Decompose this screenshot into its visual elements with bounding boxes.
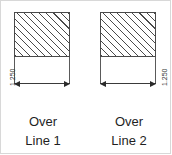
dimension-line-1 <box>14 83 70 84</box>
arrowhead-right-icon <box>150 81 156 87</box>
hatched-part-1 <box>14 12 70 57</box>
drawing-sheet: 1.250 Over Line 1 1.250 Over Line 2 <box>0 0 172 155</box>
caption-line-1b: Line 1 <box>0 131 86 150</box>
figure-caption-1: Over Line 1 <box>0 112 86 150</box>
figure-caption-2: Over Line 2 <box>86 112 172 150</box>
arrowhead-right-icon <box>64 81 70 87</box>
dimension-value-2: 1.250 <box>159 60 171 86</box>
caption-line-2b: Line 2 <box>86 131 172 150</box>
caption-line-1a: Over <box>0 112 86 131</box>
dimension-line-2 <box>100 83 156 84</box>
arrowhead-left-icon <box>100 81 106 87</box>
caption-line-2a: Over <box>86 112 172 131</box>
dimension-value-1: 1.250 <box>7 60 19 86</box>
figure-over-line-1: 1.250 Over Line 1 <box>0 0 86 155</box>
hatched-part-2 <box>100 12 156 57</box>
figure-over-line-2: 1.250 Over Line 2 <box>86 0 172 155</box>
